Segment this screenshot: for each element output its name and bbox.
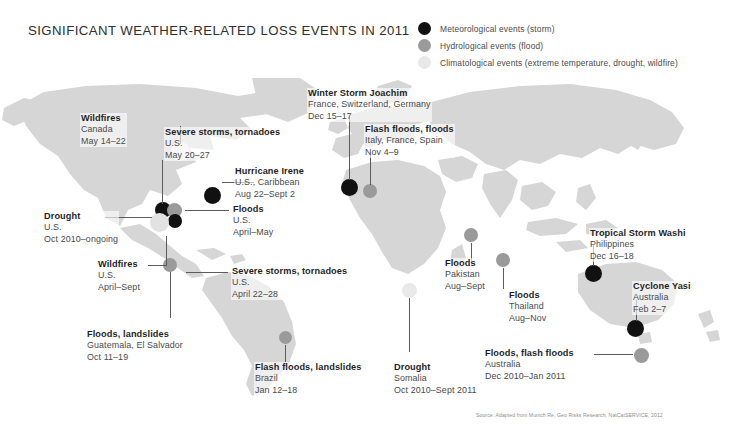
callout-title: Flash floods, floods <box>365 124 454 135</box>
callout-tropical-storm-washi[interactable]: Tropical Storm Washi Philippines Dec 16–… <box>589 228 687 262</box>
legend: Meteorological events (storm) Hydrologic… <box>418 20 678 71</box>
legend-swatch-meteorological-icon <box>418 22 431 35</box>
callout-date: April–May <box>233 227 273 238</box>
callout-date: Oct 11–19 <box>87 352 183 363</box>
callout-date: May 20–27 <box>165 150 280 161</box>
callout-place: Australia <box>633 292 691 303</box>
leader-line-thailand <box>503 268 504 289</box>
callout-date: April–Sept <box>98 282 140 293</box>
callout-place: Brazil <box>255 373 362 384</box>
callout-place: France, Switzerland, Germany <box>308 99 431 110</box>
callout-floods-us[interactable]: Floods U.S. April–May <box>232 204 274 238</box>
callout-floods-guatemala[interactable]: Floods, landslides Guatemala, El Salvado… <box>86 329 184 363</box>
leader-line-wildfires-us-h <box>148 265 166 266</box>
callout-wildfires-canada[interactable]: Wildfires Canada May 14–22 <box>80 113 127 147</box>
leader-line-floods-australia <box>594 354 633 355</box>
callout-date: Dec 15–17 <box>308 111 431 122</box>
callout-date: May 14–22 <box>81 136 126 147</box>
callout-title: Wildfires <box>98 259 140 270</box>
callout-floods-thailand[interactable]: Floods Thailand Aug–Nov <box>508 290 547 324</box>
callout-severe-storms-april[interactable]: Severe storms, tornadoes U.S. April 22–2… <box>231 266 348 300</box>
legend-swatch-climatological-icon <box>418 56 431 69</box>
callout-date: April 22–28 <box>232 289 347 300</box>
event-dot-tropical-storm-washi[interactable] <box>585 265 602 282</box>
callout-date: Dec 16–18 <box>590 251 686 262</box>
event-dot-floods-australia[interactable] <box>634 348 649 363</box>
callout-title: Floods <box>509 290 546 301</box>
event-dot-cyclone-yasi[interactable] <box>627 320 644 337</box>
callout-place: U.S. <box>233 215 273 226</box>
leader-line-severe-storms-april-h <box>186 272 228 273</box>
callout-place: Canada <box>81 124 126 135</box>
legend-swatch-hydrological-icon <box>418 39 431 52</box>
legend-label-climatological: Climatological events (extreme temperatu… <box>440 58 678 68</box>
callout-date: Feb 2–7 <box>633 304 691 315</box>
callout-date: Nov 4–9 <box>365 147 454 158</box>
callout-place: U.S. <box>165 138 280 149</box>
callout-date: Oct 2010–ongoing <box>44 234 118 245</box>
callout-hurricane-irene[interactable]: Hurricane Irene U.S., Caribbean Aug 22–S… <box>234 166 305 200</box>
callout-place: Philippines <box>590 239 686 250</box>
callout-floods-australia[interactable]: Floods, flash floods Australia Dec 2010–… <box>484 348 575 382</box>
callout-place: Thailand <box>509 301 546 312</box>
callout-flash-floods-brazil[interactable]: Flash floods, landslides Brazil Jan 12–1… <box>254 362 363 396</box>
legend-item-climatological: Climatological events (extreme temperatu… <box>418 54 678 71</box>
event-dot-flash-floods-italy[interactable] <box>363 184 377 198</box>
callout-place: U.S. <box>232 277 347 288</box>
callout-place: Guatemala, El Salvador <box>87 340 183 351</box>
callout-title: Drought <box>394 362 477 373</box>
callout-date: Aug 22–Sept 2 <box>235 189 304 200</box>
callout-title: Winter Storm Joachim <box>308 88 431 99</box>
callout-title: Tropical Storm Washi <box>590 228 686 239</box>
legend-label-meteorological: Meteorological events (storm) <box>440 24 555 34</box>
callout-place: Australia <box>485 359 574 370</box>
leader-line-brazil <box>285 345 286 362</box>
infographic-canvas: SIGNIFICANT WEATHER-RELATED LOSS EVENTS … <box>0 0 742 435</box>
callout-date: Dec 2010–Jan 2011 <box>485 371 574 382</box>
callout-severe-storms-may[interactable]: Severe storms, tornadoes U.S. May 20–27 <box>164 127 281 161</box>
callout-date: Oct 2010–Sept 2011 <box>394 385 477 396</box>
event-dot-drought-us[interactable] <box>150 213 169 232</box>
callout-date: Aug–Nov <box>509 313 546 324</box>
event-dot-drought-somalia[interactable] <box>402 283 417 298</box>
leader-line-guatemala <box>170 272 171 318</box>
event-dot-flash-floods-brazil[interactable] <box>279 331 292 344</box>
callout-cyclone-yasi[interactable]: Cyclone Yasi Australia Feb 2–7 <box>632 281 692 315</box>
leader-line-severe-storms-may <box>162 160 163 204</box>
callout-drought-us[interactable]: Drought U.S. Oct 2010–ongoing <box>43 211 119 245</box>
callout-wildfires-us[interactable]: Wildfires U.S. April–Sept <box>97 259 141 293</box>
event-dot-winter-storm-joachim[interactable] <box>341 179 358 196</box>
callout-title: Drought <box>44 211 118 222</box>
callout-place: Italy, France, Spain <box>365 135 454 146</box>
callout-title: Flash floods, landslides <box>255 362 362 373</box>
callout-drought-somalia[interactable]: Drought Somalia Oct 2010–Sept 2011 <box>393 362 478 396</box>
callout-title: Wildfires <box>81 113 126 124</box>
source-attribution: Source: Adapted from Munich Re, Geo Risk… <box>476 412 663 418</box>
legend-item-hydrological: Hydrological events (flood) <box>418 37 678 54</box>
leader-line-somalia <box>409 298 410 352</box>
event-dot-floods-pakistan[interactable] <box>464 228 478 242</box>
callout-place: Pakistan <box>445 269 485 280</box>
event-dot-hurricane-irene[interactable] <box>204 187 221 204</box>
page-title: SIGNIFICANT WEATHER-RELATED LOSS EVENTS … <box>28 23 409 38</box>
callout-title: Severe storms, tornadoes <box>232 266 347 277</box>
callout-floods-pakistan[interactable]: Floods Pakistan Aug–Sept <box>444 258 486 292</box>
callout-title: Floods, flash floods <box>485 348 574 359</box>
legend-label-hydrological: Hydrological events (flood) <box>440 41 543 51</box>
callout-title: Floods, landslides <box>87 329 183 340</box>
callout-place: U.S., Caribbean <box>235 177 304 188</box>
callout-title: Floods <box>233 204 273 215</box>
callout-place: U.S. <box>44 222 118 233</box>
event-dot-severe-storms-secondary[interactable] <box>168 214 182 228</box>
callout-date: Jan 12–18 <box>255 385 362 396</box>
callout-title: Hurricane Irene <box>235 166 304 177</box>
callout-place: Somalia <box>394 373 477 384</box>
callout-flash-floods-italy[interactable]: Flash floods, floods Italy, France, Spai… <box>364 124 455 158</box>
callout-date: Aug–Sept <box>445 281 485 292</box>
callout-title: Severe storms, tornadoes <box>165 127 280 138</box>
callout-winter-storm-joachim[interactable]: Winter Storm Joachim France, Switzerland… <box>307 88 432 122</box>
event-dot-floods-thailand[interactable] <box>496 253 510 267</box>
legend-item-meteorological: Meteorological events (storm) <box>418 20 678 37</box>
callout-title: Floods <box>445 258 485 269</box>
leader-line-wildfires-us-v <box>166 236 167 266</box>
